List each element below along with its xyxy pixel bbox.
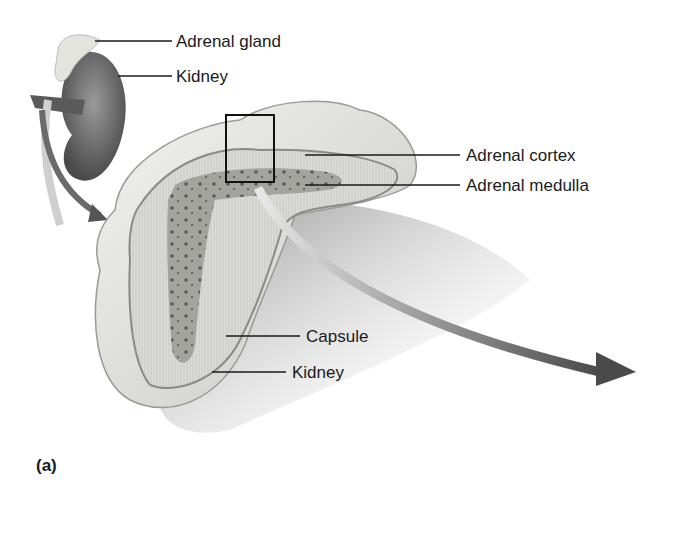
label-adrenal-medulla: Adrenal medulla bbox=[466, 177, 589, 194]
label-kidney-top: Kidney bbox=[176, 68, 228, 85]
label-capsule: Capsule bbox=[306, 328, 368, 345]
adrenal-gland-illustration bbox=[0, 0, 693, 550]
label-adrenal-gland: Adrenal gland bbox=[176, 33, 281, 50]
panel-label: (a) bbox=[36, 456, 57, 476]
label-adrenal-cortex: Adrenal cortex bbox=[466, 147, 576, 164]
label-kidney-bottom: Kidney bbox=[292, 364, 344, 381]
